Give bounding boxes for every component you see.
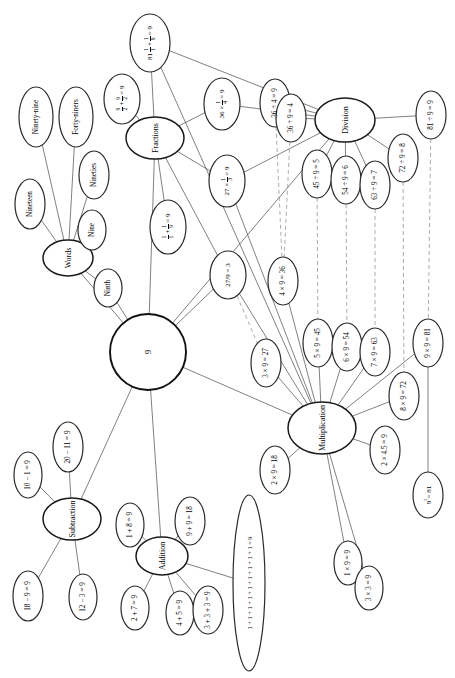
edge-subtraction-to-s2 <box>38 538 61 577</box>
node-shape-add-2-plus-7[interactable] <box>121 586 149 630</box>
node-shape-branch-division[interactable] <box>315 98 375 142</box>
node-shape-sub-18-minus-9[interactable] <box>13 571 43 621</box>
node-shape-add-nine-ones[interactable] <box>233 495 265 671</box>
edge-multiplication-to-m6 <box>352 402 389 416</box>
edge-d2-to-m2 <box>317 198 318 319</box>
edge-multiplication-to-m7 <box>353 439 370 445</box>
node-shape-mult-nine-squared[interactable] <box>413 472 443 518</box>
node-shape-mult-6-times-9[interactable] <box>332 323 362 371</box>
edge-multiplication-to-m4 <box>338 368 364 405</box>
concept-map-canvas: 9WordsFractionsDivisionMultiplicationAdd… <box>0 0 455 678</box>
edge-subtraction-to-s0 <box>40 487 55 502</box>
node-shape-fraction-36-times-one-quarter[interactable] <box>204 78 240 130</box>
edge-multiplication-to-m8 <box>288 448 300 459</box>
edge-hub-to-f5 <box>175 289 213 326</box>
node-shape-add-3-plus-3-plus-3[interactable] <box>193 586 223 634</box>
edge-addition-to-a5 <box>186 563 233 578</box>
edge-fractions-to-f1 <box>136 115 140 120</box>
edge-hub-to-subtraction <box>81 387 132 499</box>
node-shape-division-63-div-9[interactable] <box>360 161 390 209</box>
edge-division-to-d2 <box>327 141 335 156</box>
node-shape-branch-addition[interactable] <box>136 537 188 575</box>
edge-division-to-d5 <box>367 135 389 149</box>
node-shape-center-node-nine[interactable] <box>110 314 186 390</box>
edge-words-to-w3 <box>41 220 56 242</box>
edge-hub-to-addition <box>151 390 161 537</box>
edge-d6-to-m5 <box>428 139 430 319</box>
node-shape-mult-8-times-9[interactable] <box>389 372 419 420</box>
node-shape-division-36-div-9[interactable] <box>276 94 306 142</box>
edge-addition-to-a3 <box>168 575 174 594</box>
node-shape-mult-9-times-9[interactable] <box>413 319 443 367</box>
edge-fractions-to-f3 <box>177 151 210 171</box>
edge-f5-to-m1 <box>237 296 257 343</box>
edge-addition-to-a2 <box>144 574 153 591</box>
node-shape-fraction-27-times-one-third[interactable] <box>209 155 245 207</box>
node-shape-word-ninth[interactable] <box>94 269 122 307</box>
edge-multiplication-to-m2 <box>319 367 321 402</box>
node-shape-mult-3-times-3[interactable] <box>355 566 383 610</box>
edge-d0-to-m0 <box>276 127 282 257</box>
node-shape-sub-10-minus-1[interactable] <box>14 452 42 498</box>
node-shape-sub-12-minus-3[interactable] <box>69 574 97 620</box>
node-shape-word-forty-niners[interactable] <box>59 87 93 147</box>
node-shape-word-nineteen[interactable] <box>15 179 45 229</box>
node-shape-division-45-div-9[interactable] <box>302 150 332 198</box>
edge-subtraction-to-s1 <box>69 472 70 498</box>
node-shape-division-81-div-9[interactable] <box>416 91 446 139</box>
edge-words-to-w5 <box>85 271 95 279</box>
node-shape-division-72-div-9[interactable] <box>388 134 418 182</box>
node-shape-fraction-81-over-1-plus-1-over-9[interactable] <box>130 14 170 72</box>
node-shape-branch-multiplication[interactable] <box>288 402 356 454</box>
node-shape-add-4-plus-5[interactable] <box>166 591 194 635</box>
node-shape-mult-2-times-9[interactable] <box>260 446 290 494</box>
edges-layer <box>0 0 455 678</box>
edge-addition-to-a0 <box>142 537 146 541</box>
edge-d1-to-m0 <box>284 142 290 257</box>
edge-subtraction-to-s3 <box>75 540 80 575</box>
node-shape-add-1-plus-8[interactable] <box>116 503 144 547</box>
node-shape-branch-subtraction[interactable] <box>43 498 101 540</box>
edge-fractions-to-f4 <box>158 159 164 201</box>
node-shape-mult-5-times-9[interactable] <box>303 319 333 367</box>
edge-fractions-to-f2 <box>179 113 205 126</box>
node-shape-fraction-1-over-1-plus-1-over-9[interactable] <box>150 200 186 254</box>
node-shape-mult-7-times-9[interactable] <box>360 328 390 376</box>
edge-multiplication-to-m9 <box>327 454 344 542</box>
edge-fractions-to-f0 <box>152 72 154 117</box>
node-shape-fraction-27-over-9-equals-3[interactable] <box>210 251 246 299</box>
node-shape-word-ninety-nine[interactable] <box>19 87 53 147</box>
edge-division-to-d6 <box>375 116 416 118</box>
edge-words-to-w1 <box>69 147 74 240</box>
node-shape-word-nine[interactable] <box>78 210 106 250</box>
node-shape-mult-2-times-4point5[interactable] <box>370 426 400 474</box>
node-shape-mult-3-times-9[interactable] <box>251 339 281 387</box>
edge-d5-to-m6 <box>403 182 404 372</box>
node-shape-sub-20-minus-11[interactable] <box>53 422 83 472</box>
node-shape-branch-fractions[interactable] <box>126 117 184 159</box>
node-shape-division-54-div-9[interactable] <box>331 156 361 204</box>
node-shape-mult-4-times-9[interactable] <box>268 257 298 305</box>
node-shape-fraction-9-over-2-plus-9-over-2[interactable] <box>104 74 140 124</box>
node-shape-word-nineties[interactable] <box>79 151 109 199</box>
node-shape-add-9-plus-9[interactable] <box>175 497 205 545</box>
edge-multiplication-to-m3 <box>330 369 341 403</box>
edge-d3-to-m3 <box>346 204 347 323</box>
